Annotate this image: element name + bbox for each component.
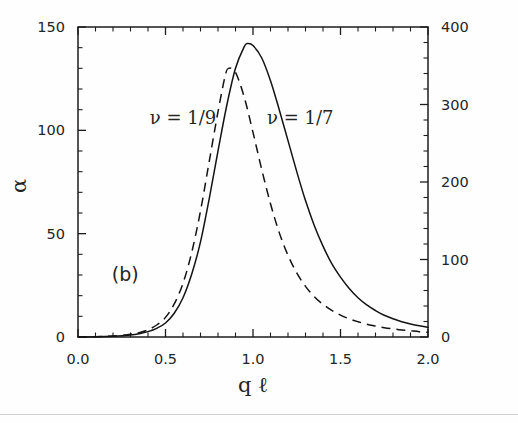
curve-nu-1-7 xyxy=(78,43,428,337)
y-tick-label-left: 100 xyxy=(37,122,65,138)
x-tick-label: 1.5 xyxy=(329,351,352,367)
y-tick-label-left: 50 xyxy=(47,226,65,242)
x-axis-label: q ℓ xyxy=(238,373,268,397)
y-axis-label: α xyxy=(7,179,31,193)
y-tick-label-left: 150 xyxy=(37,19,65,35)
chart-svg: 0.00.51.01.52.0 050100150 0100200300400 … xyxy=(0,0,518,423)
figure-panel-b: 0.00.51.01.52.0 050100150 0100200300400 … xyxy=(0,0,518,423)
x-tick-label: 0.5 xyxy=(154,351,177,367)
y-tick-label-right: 100 xyxy=(441,252,469,268)
plot-frame xyxy=(78,27,428,337)
y-tick-label-right: 0 xyxy=(441,329,450,345)
x-tick-label: 0.0 xyxy=(66,351,89,367)
x-tick-label: 1.0 xyxy=(241,351,264,367)
y-tick-label-left: 0 xyxy=(56,329,65,345)
major-ticks-group xyxy=(78,27,428,337)
y-tick-labels-right: 0100200300400 xyxy=(441,19,469,345)
y-tick-label-right: 400 xyxy=(441,19,469,35)
nu-1-7-label: ν = 1/7 xyxy=(267,107,333,128)
panel-b-label: (b) xyxy=(112,263,139,285)
y-tick-labels-left: 050100150 xyxy=(37,19,65,345)
y-tick-label-right: 300 xyxy=(441,97,469,113)
x-tick-label: 2.0 xyxy=(416,351,439,367)
y-tick-label-right: 200 xyxy=(441,174,469,190)
nu-1-9-label: ν = 1/9 xyxy=(150,107,216,128)
curve-nu-1-9 xyxy=(78,68,428,337)
x-tick-labels: 0.00.51.01.52.0 xyxy=(66,351,439,367)
minor-ticks-group xyxy=(78,27,428,337)
